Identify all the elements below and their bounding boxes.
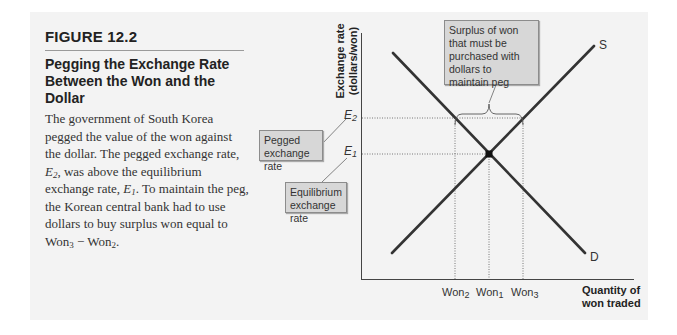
- x-tick-won1: Won1: [476, 286, 503, 298]
- x-tick-won3: Won3: [511, 286, 538, 298]
- demand-label: D: [590, 250, 599, 264]
- x-axis-title: Quantity of won traded: [582, 284, 636, 310]
- y-axis-title: Exchange rate (dollars/won): [334, 6, 360, 116]
- callout-equilibrium-exchange-rate: Equilibrium exchange rate: [285, 182, 347, 213]
- callout-surplus-won: Surplus of won that must be purchased wi…: [444, 20, 539, 85]
- supply-label: S: [599, 38, 607, 52]
- callout-pegged-exchange-rate: Pegged exchange rate: [259, 130, 323, 161]
- y-tick-e1: E1: [344, 144, 357, 158]
- equilibrium-leader: [322, 158, 347, 182]
- x-tick-won2: Won2: [442, 286, 469, 298]
- surplus-bracket: [455, 104, 523, 125]
- equilibrium-point: [486, 151, 493, 158]
- y-tick-e2: E2: [344, 108, 357, 122]
